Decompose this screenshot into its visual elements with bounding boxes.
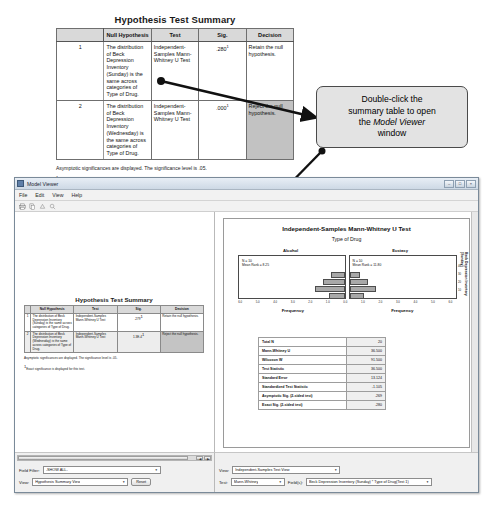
stat-label-wilcoxon-w: Wilcoxon W [259, 356, 347, 365]
field-filter-label: Field Filter: [19, 468, 40, 473]
sig-footnote-marker: 1 [227, 103, 229, 108]
stat-value-standard-error: 13.124 [347, 374, 386, 383]
column-header-null-hypothesis: Null Hypothesis [31, 306, 74, 314]
model-viewer-body: Hypothesis Test Summary Null Hypothesis … [15, 212, 478, 452]
right-panel[interactable]: Independent-Samples Mann-Whitney U Test … [215, 212, 478, 452]
left-panel-summary-table[interactable]: Null Hypothesis Test Sig. Decision 1 The… [24, 305, 204, 353]
table-row[interactable]: 2 The distribution of Beck Depression In… [25, 331, 204, 353]
table-row[interactable]: 1 The distribution of Beck Depression In… [57, 41, 294, 100]
x-tick-l-1: 5.0 [256, 300, 260, 304]
stat-value-standardized-test-statistic: -1.105 [347, 383, 386, 392]
chart-card[interactable]: Independent-Samples Mann-Whitney U Test … [223, 218, 470, 448]
menu-bar[interactable]: File Edit View Help [15, 190, 478, 201]
menu-item-view[interactable]: View [52, 192, 63, 198]
test-statistics-table[interactable]: Total N20 Mann-Whitney U36.500 Wilcoxon … [258, 337, 386, 410]
print-icon[interactable] [19, 203, 26, 210]
menu-item-file[interactable]: File [19, 192, 27, 198]
view-select-left[interactable]: Hypothesis Summary View ▼ [32, 478, 128, 486]
window-controls[interactable]: – □ × [444, 180, 476, 188]
sig-footnote-marker: 1 [227, 44, 229, 49]
bar-ecstasy-3 [350, 286, 376, 292]
stat-value-wilcoxon-w: 91.500 [347, 356, 386, 365]
table-row[interactable]: 1 The distribution of Beck Depression In… [25, 313, 204, 331]
toolbar[interactable] [15, 201, 478, 212]
group-label-ecstasy: Ecstasy [348, 248, 453, 253]
bar-alcohol-2 [323, 279, 345, 285]
stat-value-asymptotic-sig: .269 [347, 392, 386, 401]
minimize-button[interactable]: – [444, 180, 454, 188]
sig-value: .280 [216, 46, 227, 52]
stat-label-asymptotic-sig: Asymptotic Sig. (2-sided test) [259, 392, 347, 401]
left-horizontal-scrollbar[interactable]: ◀ ▶ [17, 455, 212, 461]
sig-footnote-marker: 1 [142, 332, 144, 337]
chevron-down-icon[interactable]: ▼ [279, 480, 282, 484]
chevron-down-icon[interactable]: ▼ [122, 480, 125, 484]
column-header-index [57, 29, 104, 42]
chevron-down-icon[interactable]: ▼ [334, 468, 337, 472]
x-tick-r-3: 3.0 [396, 300, 400, 304]
plot-area-ecstasy: N = 10 Mean Rank = 11.80 [349, 255, 457, 299]
close-button[interactable]: × [466, 180, 476, 188]
scroll-right-arrow[interactable]: ▶ [204, 456, 211, 460]
callout-line-3-emphasis: Model Viewer [373, 117, 425, 127]
left-panel[interactable]: Hypothesis Test Summary Null Hypothesis … [15, 212, 215, 452]
scroll-left-arrow[interactable]: ◀ [196, 456, 203, 460]
stat-value-total-n: 20 [347, 338, 386, 347]
fields-label: Field(s): [288, 480, 303, 485]
field-filter-select[interactable]: -SHOW ALL- ▼ [43, 466, 161, 474]
sig-value: .000 [216, 105, 227, 111]
screenshot-root: Hypothesis Test Summary Null Hypothesis … [0, 0, 493, 506]
left-footnote-exact: 1Exact significance is displayed for thi… [24, 364, 204, 372]
hypothesis-test-summary-table[interactable]: Null Hypothesis Test Sig. Decision 1 The… [56, 28, 294, 160]
left-panel-output[interactable]: Hypothesis Test Summary Null Hypothesis … [24, 296, 204, 372]
bar-alcohol-4 [329, 293, 345, 299]
right-panel-scrollbar[interactable] [471, 212, 478, 452]
left-footnote-exact-text: Exact significance is displayed for this… [26, 367, 85, 371]
cell-decision: Reject the null hypothesis. [246, 100, 293, 159]
column-header-null-hypothesis: Null Hypothesis [104, 29, 151, 42]
x-tick-l-5: 1.0 [326, 300, 330, 304]
table-row[interactable]: 2 The distribution of Beck Depression In… [57, 100, 294, 159]
cell-null-hypothesis: The distribution of Beck Depression Inve… [104, 41, 151, 100]
table-row: Total N20 [259, 338, 386, 347]
test-and-fields-row: Test: Mann-Whitney ▼ Field(s): Beck Depr… [219, 478, 432, 486]
chevron-down-icon[interactable]: ▼ [155, 468, 158, 472]
mean-rank-label-alcohol: Mean Rank = 8.25 [242, 263, 269, 267]
window-title: Model Viewer [27, 181, 444, 187]
fields-select[interactable]: Beck Depression Inventory (Sunday) * Typ… [306, 478, 432, 486]
menu-item-help[interactable]: Help [71, 192, 82, 198]
x-tick-r-1: 1.0 [361, 300, 365, 304]
title-bar[interactable]: Model Viewer – □ × [15, 178, 478, 190]
cell-null-hypothesis: The distribution of Beck Depression Inve… [104, 100, 151, 159]
cell-sig: 1.3E-41 [117, 331, 160, 353]
callout-line-1: Double-click the [361, 94, 422, 104]
n-label-alcohol: N = 10 [242, 259, 252, 263]
fields-value: Beck Depression Inventory (Sunday) * Typ… [309, 480, 409, 484]
bar-alcohol-1 [331, 272, 345, 278]
view-select-right[interactable]: Independent-Samples Test View ▼ [232, 466, 340, 474]
column-header-test: Test [74, 306, 117, 314]
menu-item-edit[interactable]: Edit [35, 192, 44, 198]
x-tick-l-6: 0.0 [343, 300, 347, 304]
bar-alcohol-3 [315, 286, 345, 292]
export-icon[interactable] [39, 203, 46, 210]
cell-sig: .2791 [117, 313, 160, 331]
scrollbar-thumb[interactable] [18, 456, 188, 460]
test-select[interactable]: Mann-Whitney ▼ [231, 478, 285, 486]
y-tick-10: 10 [458, 288, 461, 292]
callout-double-click-text: Double-click the summary table to open t… [348, 94, 435, 139]
cell-sig: .2801 [199, 41, 246, 100]
bottom-bar-right: View: Independent-Samples Test View ▼ Te… [215, 452, 478, 492]
n-label-ecstasy: N = 10 [353, 259, 363, 263]
copy-icon[interactable] [29, 203, 36, 210]
population-pyramid-chart: Alcohol Ecstasy N = 10 Mean Rank = 8.25 [238, 248, 457, 306]
zoom-icon[interactable] [49, 203, 56, 210]
x-tick-l-4: 2.0 [308, 300, 312, 304]
chevron-down-icon[interactable]: ▼ [426, 480, 429, 484]
bar-ecstasy-2 [350, 279, 368, 285]
cell-test: Independent-Samples Mann-Whitney U Test [74, 313, 117, 331]
table-header-row: Null Hypothesis Test Sig. Decision [57, 29, 294, 42]
maximize-button[interactable]: □ [455, 180, 465, 188]
hypothesis-test-summary-output[interactable]: Hypothesis Test Summary Null Hypothesis … [56, 14, 294, 185]
reset-button[interactable]: Reset [131, 478, 151, 486]
